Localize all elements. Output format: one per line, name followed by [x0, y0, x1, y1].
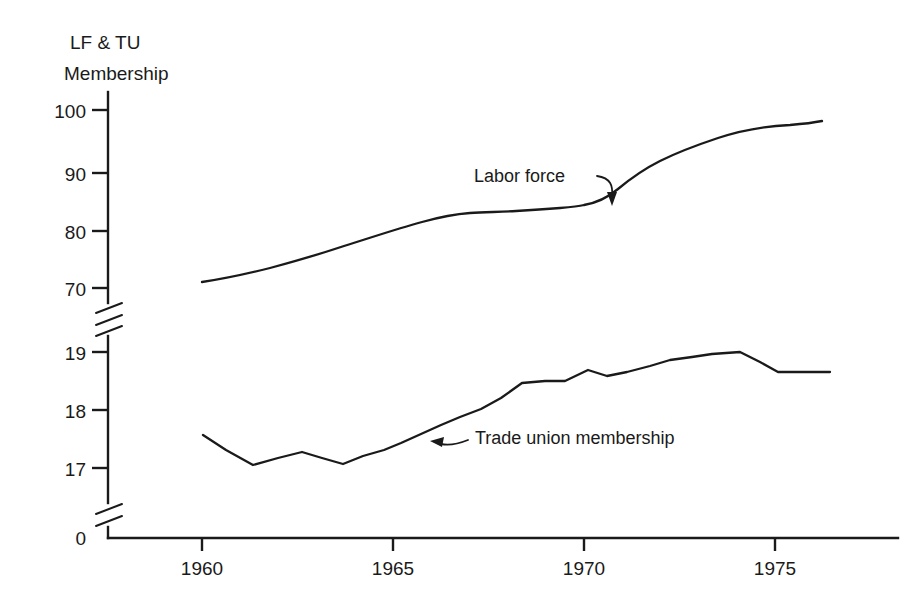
y-axis-lower-ticks: 19 18 17 0: [65, 343, 108, 549]
trade-union-label: Trade union membership: [475, 428, 674, 448]
y-tick-label-18: 18: [65, 401, 86, 422]
chart-canvas: LF & TU Membership 100 90 80 70: [0, 0, 912, 605]
x-tick-label-1970: 1970: [563, 558, 605, 579]
x-tick-label-1960: 1960: [181, 558, 223, 579]
x-tick-label-1975: 1975: [754, 558, 796, 579]
chart-figure: LF & TU Membership 100 90 80 70: [0, 0, 912, 605]
y-tick-label-100: 100: [54, 101, 86, 122]
trade-union-leader-line: [441, 440, 468, 445]
labor-force-curve: [202, 121, 822, 282]
labor-force-arrowhead: [607, 192, 617, 206]
y-tick-label-90: 90: [65, 164, 86, 185]
y-tick-label-17: 17: [65, 459, 86, 480]
trade-union-arrowhead: [430, 437, 444, 447]
trade-union-curve: [203, 352, 830, 465]
x-axis-ticks: 1960 1965 1970 1975: [181, 538, 796, 579]
axis-break-lower: [96, 504, 122, 526]
y-tick-label-0: 0: [75, 528, 86, 549]
y-tick-label-70: 70: [65, 279, 86, 300]
y-axis-title-line1: LF & TU: [70, 32, 140, 53]
x-tick-label-1965: 1965: [372, 558, 414, 579]
y-axis-title-line2: Membership: [64, 63, 169, 84]
y-tick-label-80: 80: [65, 222, 86, 243]
labor-force-label: Labor force: [474, 166, 565, 186]
y-tick-label-19: 19: [65, 343, 86, 364]
axis-break-upper: [96, 303, 122, 336]
y-axis-upper-ticks: 100 90 80 70: [54, 101, 108, 300]
